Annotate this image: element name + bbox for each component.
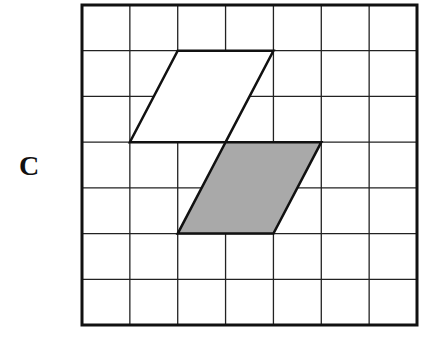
parallelograms	[130, 51, 321, 234]
grid-diagram	[0, 0, 441, 354]
